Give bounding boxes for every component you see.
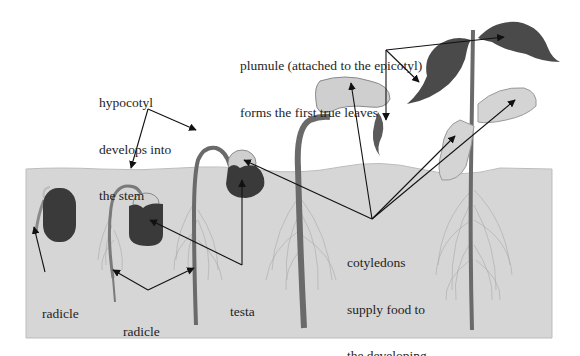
label-line: cotyledons	[347, 255, 427, 271]
label-line: forms the first true leaves	[240, 105, 422, 121]
label-hypocotyl: hypocotyl develops into the stem	[99, 64, 171, 235]
label-line: the developing	[347, 348, 427, 356]
label-radicle-root: radicle develops into the root	[123, 293, 195, 356]
label-line: radicle	[123, 324, 195, 340]
label-testa: testa comes off	[230, 273, 265, 356]
label-line: develops into	[99, 142, 171, 158]
label-plumule: plumule (attached to the epicotyl) forms…	[240, 27, 422, 151]
label-line: radicle	[42, 306, 88, 322]
label-line: hypocotyl	[99, 95, 171, 111]
label-line: testa	[230, 304, 265, 320]
label-line: the stem	[99, 188, 171, 204]
label-radicle-emerges: radicle emerges from the seed	[42, 275, 88, 356]
label-line: plumule (attached to the epicotyl)	[240, 58, 422, 74]
label-line: comes	[230, 351, 265, 356]
label-cotyledons: cotyledons supply food to the developing…	[347, 224, 427, 356]
germination-diagram: hypocotyl develops into the stem plumule…	[0, 0, 580, 356]
label-line: supply food to	[347, 302, 427, 318]
label-line: emerges	[42, 353, 88, 356]
